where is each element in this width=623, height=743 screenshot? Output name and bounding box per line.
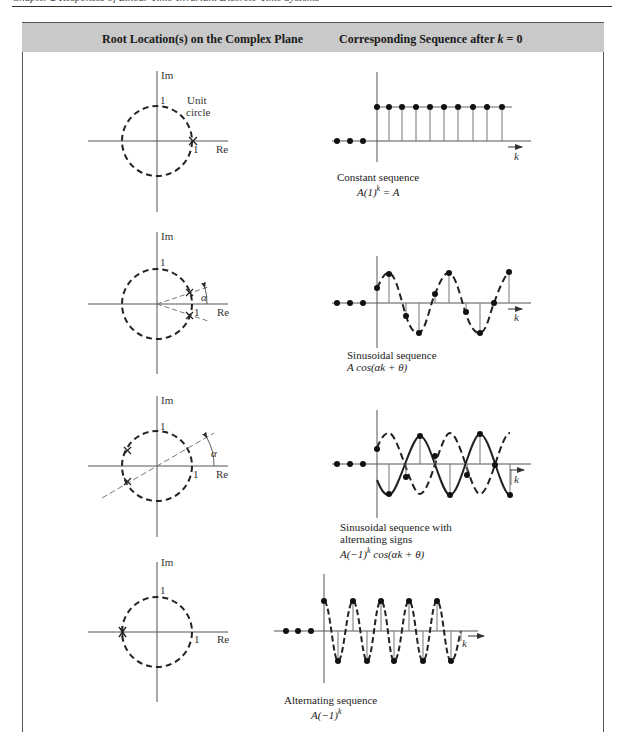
one-label-re: 1 xyxy=(194,306,200,318)
formula-tail: cos(αk + θ) xyxy=(371,548,425,560)
re-label: Re xyxy=(216,143,228,155)
caption-title: Sinusoidal sequence with xyxy=(340,521,452,533)
alpha-label: α xyxy=(201,291,207,303)
caption-alternating-sinusoidal: Sinusoidal sequence with alternating sig… xyxy=(340,521,452,560)
one-label-im: 1 xyxy=(160,94,166,106)
im-label: Im xyxy=(161,556,174,568)
caption-alternating: Alternating sequence A(−1)k xyxy=(284,694,377,721)
sequence-plot-alternating-sinusoidal: k xyxy=(332,410,531,518)
k-label: k xyxy=(514,150,520,162)
caption-title: Alternating sequence xyxy=(284,694,377,706)
one-label-im: 1 xyxy=(160,256,166,268)
k-label: k xyxy=(514,311,520,323)
one-label-re: 1 xyxy=(193,143,199,155)
formula-tail: = A xyxy=(380,186,399,198)
sequence-plot-alternating: k xyxy=(274,574,484,683)
one-label-im: 1 xyxy=(160,420,166,432)
figure-canvas: Im 1 Unit circle 1 Re k xyxy=(0,0,623,743)
one-label-re: 1 xyxy=(194,633,200,645)
complex-plane-row1: Im 1 Unit circle 1 Re xyxy=(88,69,228,212)
im-label: Im xyxy=(161,230,174,242)
formula-base: A(1) xyxy=(357,186,377,198)
caption-formula: A(−1)k xyxy=(284,706,377,721)
unit-label: Unit xyxy=(187,94,207,106)
formula-base: A(−1) xyxy=(340,548,367,560)
one-label-re: 1 xyxy=(193,468,199,480)
caption-sinusoidal: Sinusoidal sequence A cos(αk + θ) xyxy=(347,349,437,373)
caption-formula: A cos(αk + θ) xyxy=(347,361,437,373)
caption-formula: A(−1)k cos(αk + θ) xyxy=(340,545,452,560)
one-label-im: 1 xyxy=(160,584,166,596)
alpha-label: α xyxy=(211,447,217,459)
sequence-plot-sinusoidal: k xyxy=(332,256,531,348)
re-label: Re xyxy=(217,633,229,645)
caption-title: Constant sequence xyxy=(337,171,419,183)
complex-plane-row4: Im 1 1 Re xyxy=(88,556,229,702)
caption-title: Sinusoidal sequence xyxy=(347,349,437,361)
formula-base: A(−1) xyxy=(311,709,338,721)
im-label: Im xyxy=(161,69,174,81)
re-label: Re xyxy=(217,306,229,318)
k-label: k xyxy=(514,473,520,485)
complex-plane-row2: α Im 1 1 Re xyxy=(88,230,229,374)
re-label: Re xyxy=(216,468,228,480)
caption-formula: A(1)k = A xyxy=(337,183,419,198)
sequence-plot-constant: k xyxy=(332,72,531,162)
complex-plane-row3: α Im 1 1 Re xyxy=(88,394,228,537)
circle-label: circle xyxy=(186,106,211,118)
k-label: k xyxy=(462,637,468,649)
formula-exponent: k xyxy=(338,707,342,716)
caption-constant: Constant sequence A(1)k = A xyxy=(337,171,419,198)
caption-title-line2: alternating signs xyxy=(340,533,452,545)
im-label: Im xyxy=(161,394,174,406)
